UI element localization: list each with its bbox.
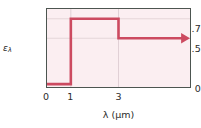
x-axis-title: λ (μm): [46, 110, 191, 120]
curve-end-arrowhead: [181, 33, 190, 44]
x-tick-label-3: 3: [109, 92, 129, 102]
plot-svg: [47, 9, 190, 87]
x-tick-label-1: 1: [60, 92, 80, 102]
y-axis-title: ελ: [3, 44, 12, 54]
x-tick-label-0: 0: [36, 92, 56, 102]
emissivity-chart-figure: ελ 0.7 0.5 0 0 1 3 λ (μm): [0, 0, 201, 128]
y-axis-title-subscript: λ: [8, 46, 12, 54]
plot-area: [46, 8, 191, 88]
emissivity-step-curve: [47, 19, 183, 84]
